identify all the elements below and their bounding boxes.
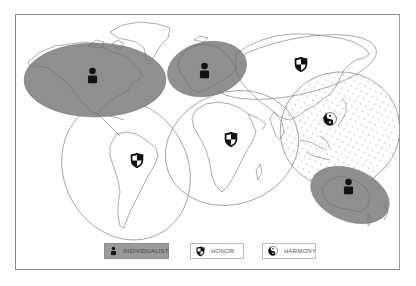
shield-icon <box>196 246 205 257</box>
legend-label: HONOR <box>211 248 234 254</box>
legend-harmony: HARMONY <box>262 243 316 259</box>
shield-icon-africa <box>225 132 238 147</box>
yin-yang-icon <box>268 246 278 256</box>
shield-icon-latin-america <box>131 153 144 168</box>
legend-honor: HONOR <box>190 243 244 259</box>
person-icon <box>110 246 117 256</box>
legend-label: HARMONY <box>284 248 316 254</box>
yin-yang-icon-east-asia <box>324 113 337 126</box>
shield-icon-russia <box>295 57 308 72</box>
legend-label: INDIVIDUALIST <box>123 248 169 254</box>
legend-individualist: INDIVIDUALIST <box>104 243 169 259</box>
